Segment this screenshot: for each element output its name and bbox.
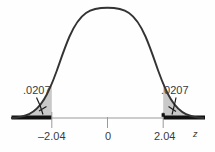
left-tail-area-label: .0207 bbox=[23, 85, 51, 96]
x-tick-label-zero: 0 bbox=[105, 131, 111, 142]
marker-dot-right bbox=[162, 113, 165, 117]
x-tick-label-2-04: 2.04 bbox=[154, 131, 175, 142]
x-axis-label: z bbox=[193, 130, 198, 139]
right-tail-area-label: .0207 bbox=[161, 85, 189, 96]
normal-curve bbox=[12, 8, 203, 118]
x-tick-label-negative-2-04: –2.04 bbox=[38, 131, 66, 142]
normal-distribution-figure: .0207 .0207 –2.04 0 2.04 z bbox=[0, 0, 215, 152]
